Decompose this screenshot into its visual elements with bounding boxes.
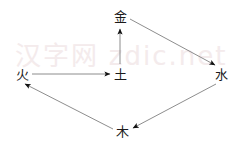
wuxing-diagram: 汉字网 zdic.net 金水木火土 bbox=[0, 0, 242, 151]
node-label-mu: 木 bbox=[116, 125, 129, 138]
edge-mu-to-huo bbox=[25, 84, 113, 129]
edge-jin-to-shui bbox=[130, 19, 215, 65]
node-label-shui: 水 bbox=[215, 68, 228, 81]
node-label-tu: 土 bbox=[114, 68, 127, 81]
node-label-jin: 金 bbox=[114, 10, 127, 23]
node-label-huo: 火 bbox=[16, 68, 29, 81]
edge-shui-to-mu bbox=[133, 84, 216, 128]
